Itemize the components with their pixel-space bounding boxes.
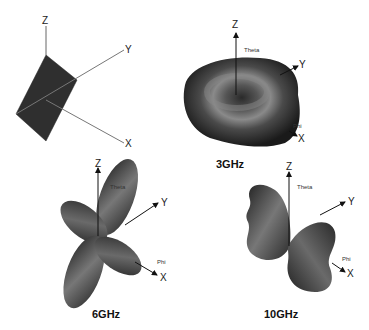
x-axis-arrow <box>332 263 345 272</box>
x-axis-label: X <box>298 133 305 144</box>
radiation-pattern-figure: Z Y X Z Theta Y Phi X 3GHz Z Theta Y Phi… <box>0 0 369 330</box>
z-axis-label: Z <box>42 15 48 26</box>
y-axis-label: Y <box>161 197 168 208</box>
frequency-label-10ghz: 10GHz <box>264 308 299 320</box>
z-axis-label: Z <box>95 158 101 169</box>
x-axis-label: X <box>347 268 354 279</box>
pattern-6ghz-panel: Z Theta Y Phi X 6GHz <box>53 154 168 320</box>
pattern-3ghz-panel: Z Theta Y Phi X 3GHz <box>184 19 306 170</box>
y-axis-arrow <box>320 202 345 215</box>
theta-label: Theta <box>110 184 126 190</box>
pattern-10ghz-panel: Z Theta Y Phi X 10GHz <box>246 161 355 320</box>
phi-label: Phi <box>342 256 351 262</box>
theta-label: Theta <box>244 47 260 53</box>
frequency-label-3ghz: 3GHz <box>216 158 245 170</box>
z-axis-label: Z <box>232 19 238 30</box>
y-axis-label: Y <box>348 196 355 207</box>
antenna-panel: Z Y X <box>16 15 132 149</box>
radiation-pattern-3ghz <box>184 57 300 146</box>
x-axis-label: X <box>160 272 167 283</box>
phi-label: Phi <box>157 259 166 265</box>
theta-label: Theta <box>297 184 313 190</box>
antenna-plate <box>16 55 77 141</box>
lobe-left <box>246 185 290 260</box>
frequency-label-6ghz: 6GHz <box>92 308 121 320</box>
y-axis-label: Y <box>299 59 306 70</box>
phi-label: Phi <box>293 123 302 129</box>
lobe-right <box>287 222 335 292</box>
y-axis-label: Y <box>125 44 132 55</box>
x-axis-label: X <box>125 138 132 149</box>
x-axis <box>46 100 124 143</box>
z-axis-label: Z <box>286 161 292 172</box>
